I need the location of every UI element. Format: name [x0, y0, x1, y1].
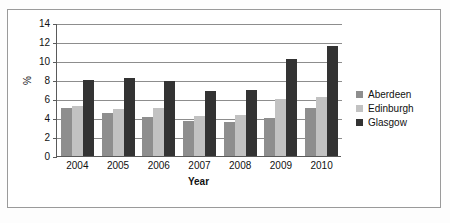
x-axis-tick-label: 2006 — [138, 160, 179, 171]
bar-glasgow-2009 — [286, 59, 297, 156]
legend-label: Edinburgh — [368, 103, 414, 114]
x-axis-tick-label: 2005 — [98, 160, 139, 171]
bar-glasgow-2007 — [205, 91, 216, 156]
bar-aberdeen-2008 — [224, 122, 235, 156]
bar-aberdeen-2006 — [142, 117, 153, 156]
y-axis-tick-label: 12 — [39, 38, 50, 48]
bar-glasgow-2004 — [83, 80, 94, 156]
bar-aberdeen-2007 — [183, 121, 194, 156]
bar-aberdeen-2005 — [102, 113, 113, 156]
bar-edinburgh-2010 — [316, 97, 327, 156]
x-axis-tick-label: 2008 — [220, 160, 261, 171]
bar-group — [220, 23, 261, 156]
bar-series-container — [57, 23, 342, 156]
x-axis-title: Year — [56, 176, 341, 187]
bar-glasgow-2006 — [164, 81, 175, 156]
legend-swatch-icon — [356, 91, 363, 98]
bar-edinburgh-2008 — [235, 115, 246, 156]
bar-group — [98, 23, 139, 156]
y-axis-title: % — [22, 76, 33, 85]
bar-aberdeen-2004 — [61, 108, 72, 156]
chart-figure: % 02468101214 20042005200620072008200920… — [0, 0, 450, 223]
bar-edinburgh-2005 — [113, 109, 124, 157]
y-axis-tick — [53, 157, 57, 158]
y-axis-tick-label: 0 — [44, 152, 50, 162]
x-axis-tick-label: 2009 — [261, 160, 302, 171]
x-axis-tick-label: 2004 — [57, 160, 98, 171]
bar-edinburgh-2006 — [153, 108, 164, 156]
x-axis-tick-label: 2007 — [179, 160, 220, 171]
y-axis-tick-label: 14 — [39, 19, 50, 29]
bar-glasgow-2010 — [327, 46, 338, 156]
legend-item-edinburgh: Edinburgh — [356, 103, 414, 114]
bar-glasgow-2008 — [246, 90, 257, 156]
y-axis-tick-label: 2 — [44, 133, 50, 143]
bar-aberdeen-2009 — [264, 118, 275, 156]
bar-edinburgh-2004 — [72, 106, 83, 156]
legend-swatch-icon — [356, 105, 363, 112]
y-axis-tick-label: 4 — [44, 114, 50, 124]
bar-group — [138, 23, 179, 156]
legend-item-glasgow: Glasgow — [356, 117, 414, 128]
y-axis-tick-label: 10 — [39, 57, 50, 67]
bar-edinburgh-2007 — [194, 116, 205, 156]
chart-legend: AberdeenEdinburghGlasgow — [356, 89, 414, 128]
bar-group — [57, 23, 98, 156]
x-axis-tick-label: 2010 — [301, 160, 342, 171]
bar-glasgow-2005 — [124, 78, 135, 156]
bar-edinburgh-2009 — [275, 99, 286, 156]
plot-area: 02468101214 2004200520062007200820092010 — [56, 24, 341, 157]
bar-aberdeen-2010 — [305, 108, 316, 156]
bar-group — [301, 23, 342, 156]
legend-swatch-icon — [356, 119, 363, 126]
y-axis-tick-label: 6 — [44, 95, 50, 105]
y-axis-tick-label: 8 — [44, 76, 50, 86]
bar-group — [179, 23, 220, 156]
legend-item-aberdeen: Aberdeen — [356, 89, 414, 100]
legend-label: Aberdeen — [368, 89, 411, 100]
bar-group — [261, 23, 302, 156]
legend-label: Glasgow — [368, 117, 407, 128]
